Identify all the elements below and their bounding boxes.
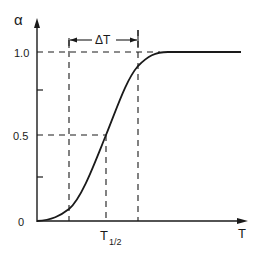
y-tick-label-1: 1.0 (14, 47, 29, 59)
t-half-subscript: 1/2 (109, 237, 122, 247)
x-axis-label: T (238, 226, 246, 241)
x-axis-arrow-icon (237, 218, 248, 224)
sigmoid-chart: α 1.0 0.5 0 ΔT T 1/2 T (0, 0, 261, 255)
y-axis-label: α (14, 11, 23, 28)
guide-lines (37, 30, 160, 221)
delta-arrow-right-icon (130, 38, 137, 43)
y-tick-label-0: 0 (18, 216, 24, 228)
delta-t-label: ΔT (95, 33, 111, 47)
chart-canvas: α 1.0 0.5 0 ΔT T 1/2 T (0, 0, 261, 255)
y-axis-arrow-icon (34, 18, 40, 28)
sigmoid-curve (37, 52, 241, 221)
t-half-label: T (100, 228, 108, 243)
y-tick-label-05: 0.5 (13, 130, 28, 142)
delta-arrow-left-icon (70, 38, 77, 43)
